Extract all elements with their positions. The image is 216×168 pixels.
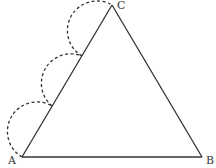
vertex-label-c: C	[117, 0, 125, 12]
arc-1	[7, 102, 52, 157]
arc-2	[41, 54, 82, 106]
arc-3	[67, 1, 112, 56]
triangle	[22, 5, 202, 157]
vertex-label-a: A	[7, 154, 17, 167]
triangle-diagram: A B C	[0, 0, 216, 168]
dashed-arcs	[7, 1, 112, 157]
vertex-label-b: B	[206, 154, 214, 167]
side-bc	[112, 5, 202, 157]
